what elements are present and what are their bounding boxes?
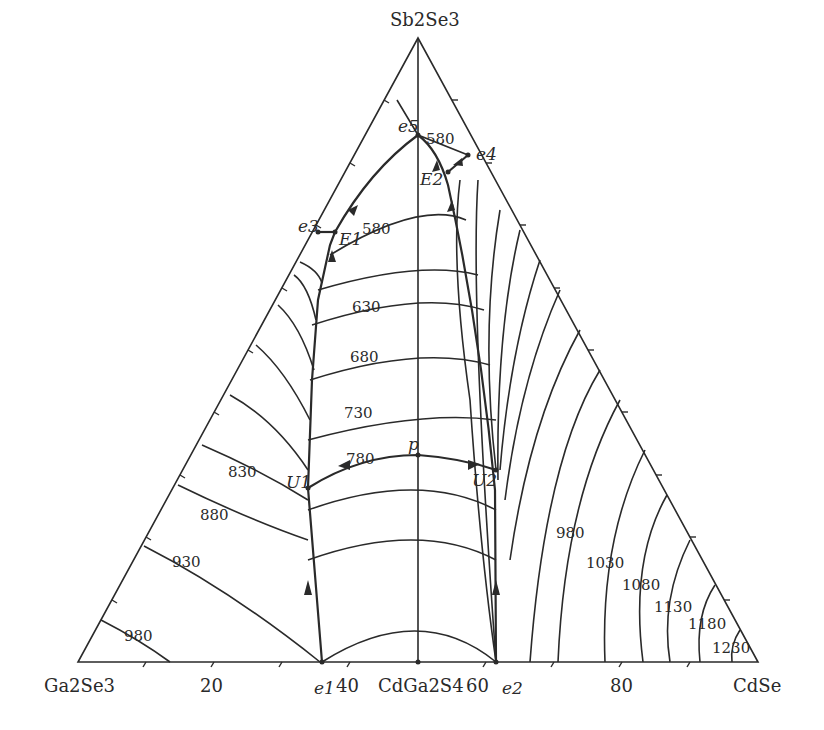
isotherms-right [457,180,740,662]
direction-arrows [304,158,500,595]
isotherm-label: 580 [362,220,391,238]
isotherm-label: 730 [344,404,373,422]
point-e1: e1 [314,678,335,698]
isotherm-label: 1130 [654,598,692,616]
isotherm-label: 580 [426,130,455,148]
isotherm-label: 930 [172,553,201,571]
point-p: p [408,434,419,454]
isotherm-label: 980 [124,627,153,645]
isotherm-label: 780 [346,450,375,468]
axis-tick-40: 40 [336,675,359,696]
axis-tick-20: 20 [200,675,223,696]
isotherm-label: 1180 [688,615,726,633]
left-side-ticks [112,100,389,603]
right-side-ticks [452,100,730,600]
isotherm-label: 880 [200,506,229,524]
curve-e5-E1 [335,135,418,232]
vertex-label-right: CdSe [733,675,781,696]
curve-U1-p-U2 [308,455,496,488]
mid-compound-label: CdGa2S4 [378,675,464,696]
isotherm-label: 630 [352,298,381,316]
point-U2: U2 [472,470,497,490]
point-E1: E1 [338,229,362,249]
point-E2: E2 [419,169,443,189]
point-e2: e2 [502,678,523,698]
axis-tick-80: 80 [610,675,633,696]
isotherm-label: 680 [350,348,379,366]
isotherms-left [101,262,322,662]
axis-tick-60: 60 [466,675,489,696]
isotherm-label: 980 [556,524,585,542]
isotherm-label: 1030 [586,554,624,572]
vertex-label-left: Ga2Se3 [44,675,115,696]
point-e3: e3 [298,216,319,236]
isotherm-label: 1230 [712,639,750,657]
ternary-diagram: Sb2Se3 Ga2Se3 CdSe 20 40 CdGa2S4 60 80 e… [0,0,824,730]
isotherm-label: 830 [228,463,257,481]
curve-e1-E1 [308,232,335,662]
point-U1: U1 [286,472,311,492]
point-e5: e5 [398,116,419,136]
isotherm-label: 1080 [622,576,660,594]
vertex-label-top: Sb2Se3 [390,9,460,30]
point-e4: e4 [476,144,497,164]
